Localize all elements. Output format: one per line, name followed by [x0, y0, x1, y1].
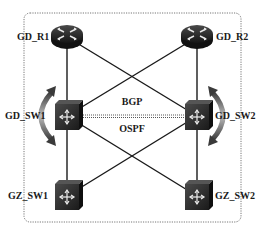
label-gd_sw1: GD_SW1	[5, 111, 46, 121]
protocol-label-ospf: OSPF	[119, 124, 145, 134]
links	[67, 37, 197, 196]
switch-icon-gd_sw1[interactable]	[55, 100, 83, 130]
switch-icon-gz_sw1[interactable]	[55, 180, 83, 210]
label-gd_r1: GD_R1	[17, 32, 49, 42]
label-gd_sw2: GD_SW2	[215, 111, 256, 121]
switch-icon-gz_sw2[interactable]	[185, 180, 213, 210]
label-gd_r2: GD_R2	[216, 32, 248, 42]
router-icon-gd_r1[interactable]	[51, 25, 83, 49]
label-gz_sw1: GZ_SW1	[8, 191, 48, 201]
link-gd_sw1-gd_sw2-dotted	[67, 115, 197, 118]
network-topology-diagram: GD_R1 GD_R2 GD_SW1 GD_SW2 GZ_SW1 GZ_SW2 …	[0, 0, 264, 233]
router-icon-gd_r2[interactable]	[181, 25, 213, 49]
label-gz_sw2: GZ_SW2	[215, 191, 255, 201]
switch-icon-gd_sw2[interactable]	[185, 100, 213, 130]
protocol-label-bgp: BGP	[122, 97, 143, 107]
